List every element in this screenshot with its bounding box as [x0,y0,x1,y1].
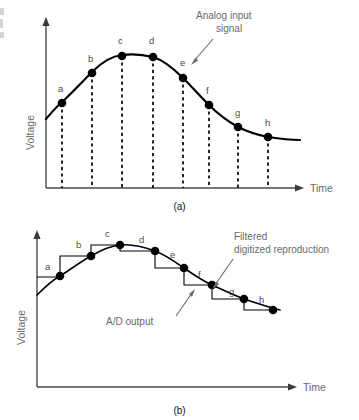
y-axis-label-a: Voltage [24,115,36,150]
filtered-leader [215,259,233,285]
ad-output-leader [176,293,192,316]
analog-input-label-line1: Analog input [196,10,252,21]
x-axis-label-b: Time [303,381,326,393]
sample-point-d [151,247,160,256]
sample-label-e: e [180,57,185,68]
sample-label-h: h [259,294,264,305]
panel-ad-output: a b c d e f g h Filtered digitized repro… [0,215,359,420]
sample-label-d: d [139,234,144,245]
sample-label-a: a [58,83,64,94]
sample-label-d: d [149,35,154,46]
filtered-label-line2: digitized reproduction [234,244,329,255]
sample-point-b [88,69,97,78]
sample-point-d [149,53,158,62]
y-axis-arrow-b [33,230,40,239]
x-axis-label-a: Time [310,182,333,194]
panel-a-caption: (a) [173,201,185,212]
sample-point-f [205,101,214,110]
panel-analog-input: a b c d e f g h Analog input signal Volt… [0,0,359,205]
sample-point-g [234,123,243,132]
sample-point-g [240,295,249,304]
y-axis-label-b: Voltage [15,310,27,345]
sample-label-c: c [118,35,123,46]
sample-point-h [264,133,273,142]
analog-input-curve [46,54,300,140]
analog-input-leader [194,39,213,61]
ad-output-label: A/D output [106,316,153,327]
sample-label-b: b [76,239,81,250]
sample-point-e [180,264,189,273]
sample-point-a [58,99,67,108]
sample-point-c [118,52,127,61]
sample-label-c: c [105,228,110,239]
sample-label-b: b [88,53,93,64]
x-axis-arrow-a [295,184,304,191]
sample-label-h: h [265,117,270,128]
analog-input-leader-arrow [191,58,198,66]
filtered-label-line1: Filtered [234,231,267,242]
analog-input-label-line2: signal [216,23,242,34]
sample-label-f: f [206,85,209,96]
sample-point-c [116,241,125,250]
sample-point-e [179,74,188,83]
chart-panel-a: a b c d e f g h Analog input signal Volt… [0,0,359,205]
chart-panel-b: a b c d e f g h Filtered digitized repro… [0,215,359,405]
sample-label-g: g [235,107,240,118]
sample-point-a [56,272,65,281]
sample-point-b [87,252,96,261]
sample-point-h [269,306,278,315]
sample-label-f: f [198,269,201,280]
sample-label-a: a [45,261,51,272]
y-axis-arrow-a [42,17,49,26]
sample-label-e: e [170,249,175,260]
sample-label-g: g [229,286,234,297]
x-axis-arrow-b [288,383,297,390]
panel-b-caption: (b) [173,405,185,416]
